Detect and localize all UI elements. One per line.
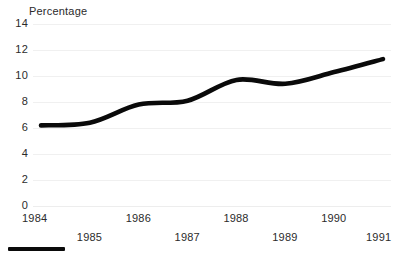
gridline-2 [33,180,391,181]
x-tick-label-1989: 1989 [272,231,297,243]
y-tick-label-4: 4 [2,147,28,159]
legend [8,247,70,251]
line-chart: Percentage 14121086420 19841985198619871… [0,0,399,262]
gridline-10 [33,76,391,77]
x-tick-label-1985: 1985 [77,231,102,243]
y-tick-label-8: 8 [2,95,28,107]
gridline-8 [33,102,391,103]
series-line-percentage [41,59,383,125]
gridline-14 [33,24,391,25]
y-tick-label-12: 12 [2,43,28,55]
x-tick-label-1986: 1986 [126,212,151,224]
gridline-12 [33,50,391,51]
y-tick-label-6: 6 [2,121,28,133]
y-tick-label-2: 2 [2,173,28,185]
x-tick-label-1990: 1990 [321,212,346,224]
y-tick-label-0: 0 [2,199,28,211]
x-tick-label-1987: 1987 [175,231,200,243]
gridline-4 [33,154,391,155]
y-tick-label-10: 10 [2,69,28,81]
y-axis-title: Percentage [29,5,87,17]
x-tick-label-1984: 1984 [22,212,47,224]
legend-line-swatch [8,247,65,251]
x-tick-label-1988: 1988 [223,212,248,224]
x-tick-label-1991: 1991 [366,231,391,243]
gridline-6 [33,128,391,129]
y-tick-label-14: 14 [2,17,28,29]
gridline-0 [33,206,391,207]
